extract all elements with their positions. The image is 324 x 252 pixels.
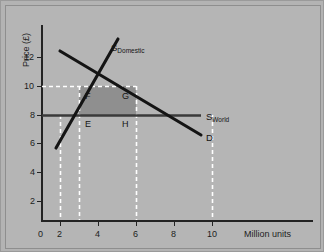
- s-world-sub: World: [212, 116, 229, 123]
- plot-area: 12 10 8 6 4 2 0 2 4 6 8 10 Price (£) Mil…: [1, 1, 324, 252]
- curves-overlay: [1, 1, 324, 252]
- annotation-F: F: [85, 91, 91, 101]
- curve-label-demand: D: [206, 132, 213, 143]
- annotation-E: E: [85, 119, 91, 129]
- annotation-H: H: [122, 119, 129, 129]
- chart-figure: 12 10 8 6 4 2 0 2 4 6 8 10 Price (£) Mil…: [0, 0, 324, 252]
- s-domestic-sub: Domestic: [117, 47, 144, 54]
- annotation-G: G: [122, 91, 129, 101]
- curve-label-s-world: SWorld: [206, 111, 229, 122]
- curve-demand: [60, 51, 201, 135]
- curve-label-s-domestic: SDomestic: [111, 42, 144, 53]
